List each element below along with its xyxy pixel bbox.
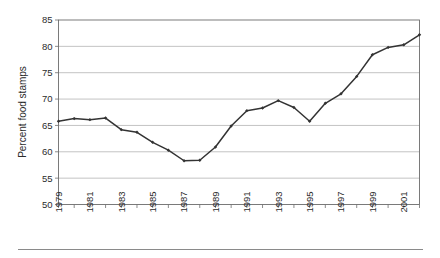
y-tick-label-50: 50 [42, 199, 53, 210]
plot-background [59, 20, 420, 205]
y-tick-label-55: 55 [42, 173, 53, 184]
x-tick-label-1983: 1983 [116, 191, 127, 212]
y-tick-label-85: 85 [42, 14, 53, 25]
y-tick-label-75: 75 [42, 67, 53, 78]
chart-figure: 5055606570758085 19791981198319851987198… [0, 0, 440, 258]
x-tick-label-1995: 1995 [304, 191, 315, 212]
x-tick-label-1997: 1997 [335, 191, 346, 212]
x-tick-label-1993: 1993 [273, 191, 284, 212]
y-tick-label-80: 80 [42, 41, 53, 52]
x-tick-label-1989: 1989 [210, 191, 221, 212]
y-tick-label-60: 60 [42, 146, 53, 157]
x-tick-label-1991: 1991 [241, 191, 252, 212]
y-tick-label-65: 65 [42, 120, 53, 131]
x-tick-label-1987: 1987 [178, 191, 189, 212]
line-chart: 5055606570758085 19791981198319851987198… [0, 0, 440, 258]
y-axis: 5055606570758085 [42, 14, 59, 210]
x-tick-label-1985: 1985 [147, 191, 158, 212]
x-tick-label-1999: 1999 [367, 191, 378, 212]
x-tick-label-2001: 2001 [398, 191, 409, 212]
y-tick-label-70: 70 [42, 93, 53, 104]
y-axis-title: Percent food stamps [17, 66, 28, 158]
x-tick-label-1981: 1981 [84, 191, 95, 212]
x-tick-label-1979: 1979 [53, 191, 64, 212]
